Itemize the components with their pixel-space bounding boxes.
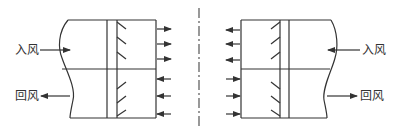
- left-unit-dampers-bottom: [117, 82, 126, 116]
- right-unit: [241, 20, 337, 118]
- right-supply-label: 入风: [362, 43, 386, 57]
- left-unit-outlet-arrows: [157, 29, 171, 59]
- right-return-label: 回风: [360, 89, 384, 103]
- left-unit-inlet-arrows: [157, 79, 171, 114]
- air-unit-diagram: 入风 回风 入风 回风: [0, 0, 396, 134]
- left-return-label: 回风: [15, 89, 39, 103]
- left-unit: [60, 20, 156, 118]
- left-supply-label: 入风: [15, 43, 39, 57]
- right-unit-dampers-bottom: [271, 82, 280, 116]
- right-unit-dampers-top: [271, 22, 280, 59]
- right-unit-outlet-arrows: [226, 30, 240, 60]
- diagram-canvas: [0, 0, 396, 134]
- right-unit-inlet-arrows: [226, 79, 240, 114]
- left-unit-dampers-top: [117, 22, 126, 59]
